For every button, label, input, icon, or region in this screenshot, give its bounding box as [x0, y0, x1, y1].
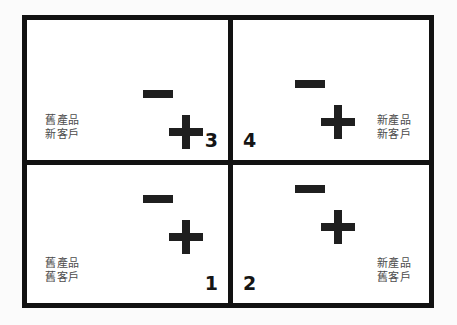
- quadrant-2-label-line1: 新產品: [377, 257, 412, 271]
- quadrant-3-label: 舊產品 新客戶: [45, 114, 80, 142]
- symbol-cluster-4: [295, 80, 365, 142]
- symbol-cluster-3: [143, 90, 213, 152]
- quadrant-3-label-line2: 新客戶: [45, 128, 80, 142]
- quadrant-2-number: 2: [243, 274, 256, 293]
- quadrant-1[interactable]: 舊產品 舊客戶 1: [27, 165, 228, 303]
- quadrant-2-label-line2: 舊客戶: [377, 271, 412, 285]
- quadrant-1-label-line2: 舊客戶: [45, 271, 80, 285]
- product-customer-matrix: 舊產品 新客戶 3 新產品 新客戶 4 舊產品: [22, 15, 434, 308]
- minus-icon: [143, 90, 173, 98]
- quadrant-1-number: 1: [205, 274, 218, 293]
- quadrant-3[interactable]: 舊產品 新客戶 3: [27, 20, 228, 160]
- quadrant-3-label-line1: 舊產品: [45, 114, 80, 128]
- minus-icon: [295, 185, 325, 193]
- minus-icon: [295, 80, 325, 88]
- symbol-cluster-2: [295, 185, 365, 247]
- quadrant-4-label-line1: 新產品: [377, 114, 412, 128]
- minus-icon: [143, 195, 173, 203]
- quadrant-4-label: 新產品 新客戶: [377, 114, 412, 142]
- quadrant-1-label-line1: 舊產品: [45, 257, 80, 271]
- quadrant-2-label: 新產品 舊客戶: [377, 257, 412, 285]
- quadrant-4-number: 4: [243, 131, 256, 150]
- quadrant-4[interactable]: 新產品 新客戶 4: [233, 20, 429, 160]
- quadrant-3-number: 3: [205, 131, 218, 150]
- quadrant-2[interactable]: 新產品 舊客戶 2: [233, 165, 429, 303]
- symbol-cluster-1: [143, 195, 213, 257]
- quadrant-4-label-line2: 新客戶: [377, 128, 412, 142]
- quadrant-1-label: 舊產品 舊客戶: [45, 257, 80, 285]
